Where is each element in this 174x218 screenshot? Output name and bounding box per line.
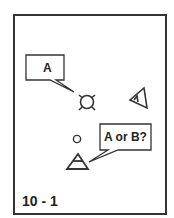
figure-caption: 10 - 1 [22, 193, 58, 209]
callout-a-label: A [43, 61, 52, 75]
circle-with-legs-icon [79, 95, 95, 110]
triangle-upright-icon [67, 154, 88, 169]
callout-a-or-b-label: A or B? [104, 130, 147, 144]
small-circle-icon [73, 135, 80, 142]
triangle-left-icon [130, 88, 147, 108]
diagram-canvas [0, 0, 174, 218]
